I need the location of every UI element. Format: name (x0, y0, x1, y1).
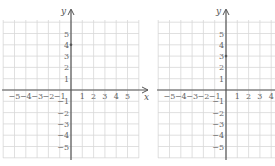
x-tick-label: 4 (269, 92, 274, 101)
plotted-point (225, 55, 228, 58)
y-tick-label: −3 (57, 120, 69, 129)
coordinate-planes: xy−5−4−3−2−11234512345−1−2−3−4−5y−5−4−3−… (0, 0, 275, 166)
x-tick-label: 5 (125, 92, 130, 101)
y-tick-label: 4 (64, 41, 69, 50)
x-tick-label: −3 (31, 92, 43, 101)
x-tick-label: −5 (9, 92, 21, 101)
x-tick-label: −2 (43, 92, 55, 101)
y-axis-label: y (60, 6, 67, 16)
y-tick-label: −2 (57, 109, 69, 118)
y-tick-label: 1 (64, 75, 69, 84)
y-tick-label: 3 (219, 52, 224, 61)
y-tick-label: 2 (64, 63, 69, 72)
y-tick-label: 1 (219, 75, 224, 84)
y-tick-label: −1 (57, 97, 69, 106)
x-tick-label: −5 (164, 92, 176, 101)
x-tick-label: 2 (91, 92, 96, 101)
x-tick-label: −4 (20, 92, 32, 101)
x-tick-label: 3 (102, 92, 107, 101)
y-tick-label: 3 (64, 52, 69, 61)
x-tick-label: 3 (257, 92, 262, 101)
x-tick-label: −2 (198, 92, 210, 101)
y-tick-label: −4 (212, 131, 224, 140)
x-tick-label: 2 (246, 92, 251, 101)
y-axis-label: y (215, 6, 222, 16)
graph-left: xy−5−4−3−2−11234512345−1−2−3−4−5 (2, 6, 149, 160)
y-tick-label: −1 (212, 97, 224, 106)
x-tick-label: 4 (114, 92, 119, 101)
x-tick-label: −4 (175, 92, 187, 101)
y-tick-label: 5 (64, 30, 69, 39)
y-tick-label: −5 (212, 143, 224, 152)
y-tick-label: −5 (57, 143, 69, 152)
y-tick-label: −3 (212, 120, 224, 129)
y-tick-label: −4 (57, 131, 69, 140)
x-tick-label: −3 (186, 92, 198, 101)
x-tick-label: 1 (235, 92, 240, 101)
x-tick-label: 1 (80, 92, 85, 101)
plotted-point (70, 44, 73, 47)
graph-right: y−5−4−3−2−1123412345−1−2−3−4−5 (157, 6, 275, 160)
x-axis-label: x (144, 92, 149, 102)
y-tick-label: −2 (212, 109, 224, 118)
y-tick-label: 2 (219, 63, 224, 72)
y-tick-label: 4 (219, 41, 224, 50)
y-tick-label: 5 (219, 30, 224, 39)
